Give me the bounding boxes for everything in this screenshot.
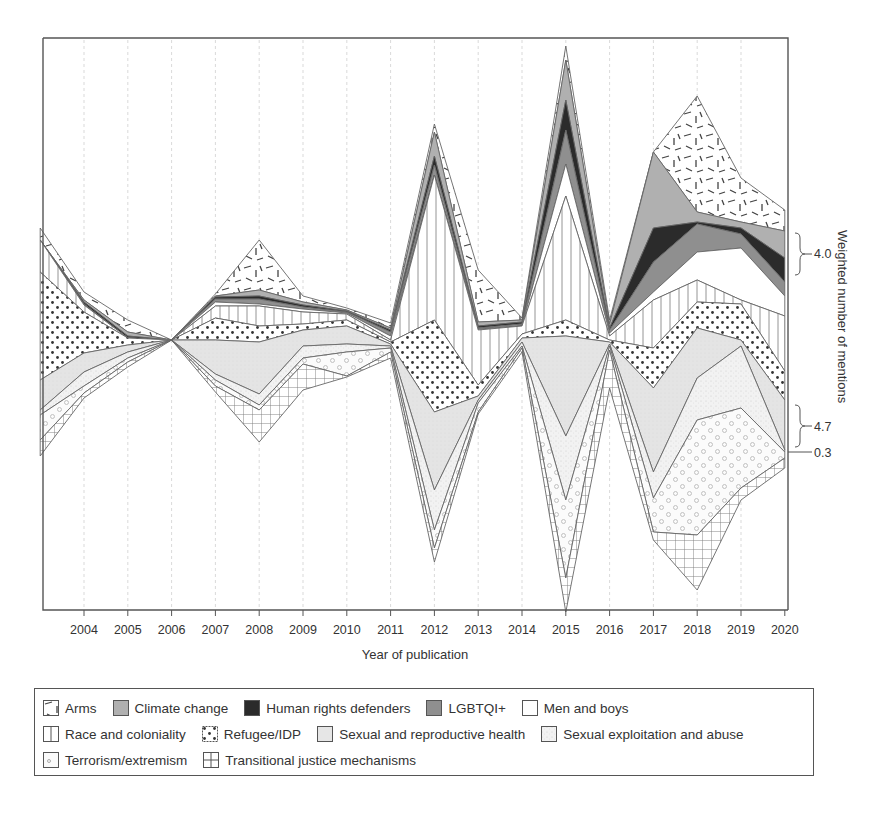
annotation-0-3: 0.3 xyxy=(814,446,831,460)
legend-item-race-and-coloniality: Race and coloniality xyxy=(43,726,186,742)
legend-row-3: Terrorism/extremism Transitional justice… xyxy=(43,747,805,773)
srh-swatch-icon xyxy=(317,726,333,742)
legend-item-terrorism: Terrorism/extremism xyxy=(43,752,187,768)
streamgraph-chart: 2004200520062007200820092010201120122013… xyxy=(0,0,891,690)
legend-item-men-and-boys: Men and boys xyxy=(522,700,629,716)
x-axis-ticks: 2004200520062007200820092010201120122013… xyxy=(70,610,799,637)
x-tick-label: 2016 xyxy=(596,623,624,637)
x-tick-label: 2020 xyxy=(771,623,799,637)
legend-item-refugee-idp: Refugee/IDP xyxy=(202,726,301,742)
human-rights-defenders-swatch-icon xyxy=(244,700,260,716)
sea-swatch-icon xyxy=(541,726,557,742)
lgbtqi-swatch-icon xyxy=(426,700,442,716)
terrorism-swatch-icon xyxy=(43,752,59,768)
refugee-swatch-icon xyxy=(202,726,218,742)
x-tick-label: 2018 xyxy=(683,623,711,637)
x-tick-label: 2012 xyxy=(420,623,448,637)
race-swatch-icon xyxy=(43,726,59,742)
x-tick-label: 2017 xyxy=(639,623,667,637)
x-tick-label: 2007 xyxy=(201,623,229,637)
x-tick-label: 2006 xyxy=(158,623,186,637)
legend-label: Terrorism/extremism xyxy=(65,753,187,768)
x-tick-label: 2008 xyxy=(245,623,273,637)
stream-layers xyxy=(40,46,785,612)
x-tick-label: 2004 xyxy=(70,623,98,637)
legend-label: Sexual and reproductive health xyxy=(339,727,525,742)
arms-swatch-icon xyxy=(43,700,59,716)
legend-item-human-rights-defenders: Human rights defenders xyxy=(244,700,410,716)
x-tick-label: 2015 xyxy=(552,623,580,637)
legend-label: Sexual exploitation and abuse xyxy=(563,727,743,742)
legend-label: Men and boys xyxy=(544,701,629,716)
legend-label: LGBTQI+ xyxy=(448,701,505,716)
legend-label: Transitional justice mechanisms xyxy=(225,753,416,768)
legend-item-sea: Sexual exploitation and abuse xyxy=(541,726,743,742)
legend-label: Race and coloniality xyxy=(65,727,186,742)
x-axis-title: Year of publication xyxy=(362,647,469,662)
legend-item-lgbtqi: LGBTQI+ xyxy=(426,700,505,716)
legend: Arms Climate change Human rights defende… xyxy=(34,688,814,776)
legend-item-climate-change: Climate change xyxy=(113,700,229,716)
annotation-bracket-upper xyxy=(795,233,812,275)
legend-item-transitional-justice: Transitional justice mechanisms xyxy=(203,752,416,768)
legend-label: Arms xyxy=(65,701,97,716)
x-tick-label: 2014 xyxy=(508,623,536,637)
x-tick-label: 2009 xyxy=(289,623,317,637)
legend-item-srh: Sexual and reproductive health xyxy=(317,726,525,742)
x-tick-label: 2005 xyxy=(114,623,142,637)
x-tick-label: 2010 xyxy=(333,623,361,637)
legend-row-1: Arms Climate change Human rights defende… xyxy=(43,695,805,721)
legend-label: Refugee/IDP xyxy=(224,727,301,742)
transitional-justice-swatch-icon xyxy=(203,752,219,768)
legend-label: Human rights defenders xyxy=(266,701,410,716)
x-tick-label: 2013 xyxy=(464,623,492,637)
annotation-4-0: 4.0 xyxy=(814,247,831,261)
climate-change-swatch-icon xyxy=(113,700,129,716)
annotation-bracket-lower xyxy=(788,405,812,452)
legend-item-arms: Arms xyxy=(43,700,97,716)
legend-row-2: Race and coloniality Refugee/IDP Sexual … xyxy=(43,721,805,747)
y-axis-title: Weighted number of mentions xyxy=(835,230,850,404)
annotation-4-7: 4.7 xyxy=(814,420,831,434)
x-tick-label: 2011 xyxy=(377,623,404,637)
men-and-boys-swatch-icon xyxy=(522,700,538,716)
legend-label: Climate change xyxy=(135,701,229,716)
x-tick-label: 2019 xyxy=(727,623,755,637)
